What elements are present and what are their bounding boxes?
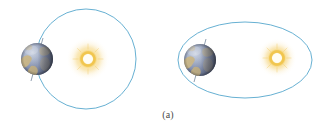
right-panel (178, 22, 312, 98)
sun-left (66, 37, 110, 81)
earth-specular-highlight (24, 45, 38, 55)
sun-core-icon (84, 55, 93, 64)
orbit-figure: (a) (0, 0, 336, 135)
sun-core-icon (273, 54, 282, 63)
figure-caption: (a) (0, 108, 336, 121)
earth-right (183, 44, 216, 78)
earth-specular-highlight (187, 46, 201, 56)
earth-left (20, 43, 53, 77)
left-panel (20, 9, 136, 109)
sun-right (257, 38, 297, 78)
